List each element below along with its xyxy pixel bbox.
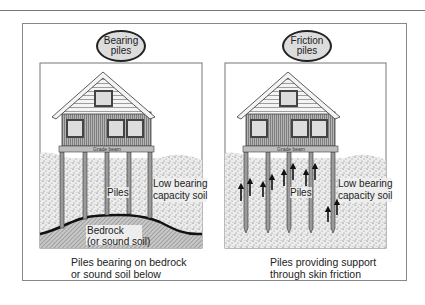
caption-line2: through skin friction	[270, 268, 376, 280]
grade-beam-label: Grade beam	[85, 146, 129, 152]
friction-piles-bubble: Friction piles	[282, 30, 332, 62]
caption-line1: Piles providing support	[270, 256, 376, 268]
friction-panel	[225, 63, 386, 248]
soil-label: Low bearing capacity soil	[338, 178, 392, 202]
bedrock-label-line2: (or sound soil)	[87, 236, 150, 247]
soil-label-line1: Low bearing	[153, 178, 207, 190]
bearing-piles-bubble: Bearing piles	[96, 30, 146, 62]
friction-caption: Piles providing support through skin fri…	[270, 256, 376, 280]
soil-label: Low bearing capacity soil	[153, 178, 207, 202]
soil-label-line2: capacity soil	[153, 190, 207, 202]
piles-label: Piles	[290, 187, 312, 198]
bearing-panel	[40, 63, 202, 248]
bedrock-label-line1: Bedrock	[87, 225, 150, 236]
bubble-line2: piles	[111, 46, 132, 57]
soil-label-line2: capacity soil	[338, 190, 392, 202]
grade-beam-label: Grade beam	[269, 146, 313, 152]
piles-label: Piles	[107, 187, 129, 198]
bearing-caption: Piles bearing on bedrock or sound soil b…	[71, 256, 187, 280]
caption-line1: Piles bearing on bedrock	[71, 256, 187, 268]
bedrock-label: Bedrock (or sound soil)	[87, 225, 150, 247]
caption-line2: or sound soil below	[71, 268, 187, 280]
bubble-line2: piles	[297, 46, 318, 57]
soil-label-line1: Low bearing	[338, 178, 392, 190]
